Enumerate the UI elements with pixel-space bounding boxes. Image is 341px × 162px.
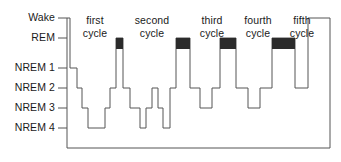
rem-block-group — [116, 38, 295, 49]
hypnogram-figure: WakeREMNREM 1NREM 2NREM 3NREM 4 firstcyc… — [0, 0, 341, 162]
rem-block — [272, 38, 295, 49]
axis-label-nrem3: NREM 3 — [15, 102, 55, 113]
axis-label-rem: REM — [31, 32, 55, 43]
rem-block — [220, 38, 236, 49]
axis-label-nrem1: NREM 1 — [15, 62, 55, 73]
axis-label-wake: Wake — [28, 12, 55, 23]
cycle-label-fifth: fifthcycle — [262, 14, 341, 39]
cycle-label-word: cycle — [262, 27, 341, 40]
axis-label-nrem4: NREM 4 — [15, 122, 55, 133]
cycle-label-ordinal: fifth — [262, 14, 341, 27]
rem-block — [116, 38, 123, 49]
rem-block — [176, 38, 190, 49]
axis-label-nrem2: NREM 2 — [15, 82, 55, 93]
